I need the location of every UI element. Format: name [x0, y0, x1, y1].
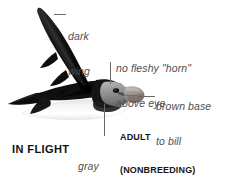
bird-illustration-plate: dark wing no fleshy "horn" above eye bro…	[0, 0, 236, 186]
callout-dark-wing-line1: dark	[68, 31, 90, 43]
leader-line-gray-face	[104, 104, 105, 136]
label-in-flight: IN FLIGHT	[12, 143, 69, 155]
caption-line1: ADULT	[120, 132, 195, 143]
callout-dark-wing: dark wing	[68, 8, 90, 100]
caption-adult-nonbreeding: ADULT (NONBREEDING)	[120, 110, 195, 186]
caption-line2: (NONBREEDING)	[120, 165, 195, 176]
callout-dark-wing-line2: wing	[68, 66, 90, 78]
callout-gray-face-line1: gray	[78, 161, 99, 173]
callout-no-horn-line1: no fleshy "horn"	[116, 63, 191, 75]
leader-line-dark-wing	[54, 14, 66, 15]
leader-line-no-horn	[110, 62, 111, 84]
callout-gray-face: gray face	[78, 138, 99, 186]
